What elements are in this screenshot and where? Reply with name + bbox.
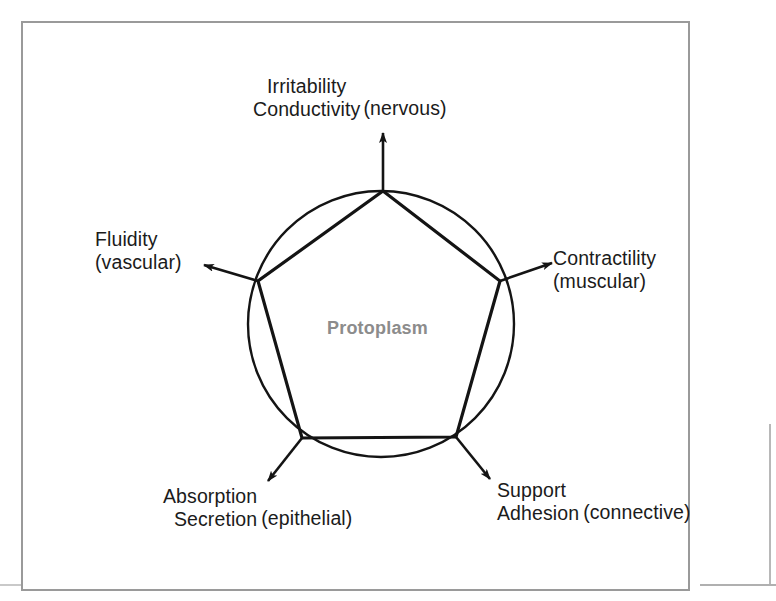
label-muscular-line1: Contractility [553,247,656,270]
label-vascular: Fluidity (vascular) [95,228,182,274]
label-vascular-line2: (vascular) [95,251,182,274]
label-epithelial-line2: Secretion [163,508,257,531]
label-connective-line1: Support [497,479,579,502]
protoplasm-pentagon [258,191,500,438]
label-connective-functions: Support Adhesion [497,479,579,525]
arrow-muscular [500,263,552,281]
label-muscular-functions: Contractility (muscular) [553,247,656,293]
label-epithelial: Absorption Secretion (epithelial) [163,485,348,531]
label-nervous: Irritability Conductivity (nervous) [253,75,444,121]
label-nervous-functions: Irritability Conductivity [253,75,360,121]
label-vascular-functions: Fluidity (vascular) [95,228,182,274]
label-connective-line2: Adhesion [497,502,579,525]
label-vascular-line1: Fluidity [95,228,182,251]
label-connective: Support Adhesion (connective) [497,479,687,525]
label-protoplasm: Protoplasm [327,317,428,340]
label-epithelial-functions: Absorption Secretion [163,485,257,531]
arrow-epithelial [268,438,302,481]
label-epithelial-tissue: (epithelial) [261,507,352,529]
label-nervous-line2: Conductivity [253,98,360,121]
label-muscular: Contractility (muscular) [553,247,656,293]
arrow-vascular [204,265,258,281]
figure-page: Irritability Conductivity (nervous) Flui… [0,0,776,601]
label-nervous-tissue: (nervous) [363,97,446,119]
label-muscular-line2: (muscular) [553,270,656,293]
label-nervous-line1: Irritability [253,75,360,98]
label-epithelial-line1: Absorption [163,485,257,508]
label-connective-tissue: (connective) [583,501,690,523]
arrow-connective [456,437,490,479]
